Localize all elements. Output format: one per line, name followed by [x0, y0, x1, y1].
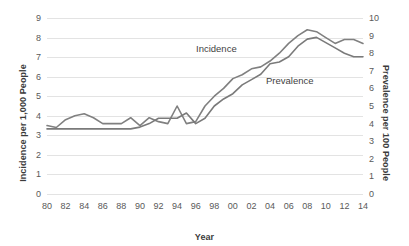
x-axis-tick-label: 06: [279, 201, 299, 211]
y-axis-right-tick-label: 7: [369, 66, 387, 76]
y-axis-left-tick-label: 9: [25, 13, 41, 23]
y-axis-right-tick-label: 4: [369, 119, 387, 129]
x-axis-tick-label: 92: [149, 201, 169, 211]
x-axis-tick-label: 82: [56, 201, 76, 211]
y-axis-left-tick-label: 5: [25, 91, 41, 101]
x-axis-title: Year: [0, 232, 409, 242]
x-axis-tick-label: 10: [316, 201, 336, 211]
series-label-prevalence: Prevalence: [266, 75, 314, 86]
gridline: [47, 194, 363, 195]
x-axis-tick-label: 08: [297, 201, 317, 211]
y-axis-right-tick-label: 0: [369, 189, 387, 199]
y-axis-left-tick-label: 6: [25, 72, 41, 82]
y-axis-left-tick-label: 1: [25, 169, 41, 179]
x-axis-tick-label: 90: [130, 201, 150, 211]
y-axis-right-tick-label: 10: [369, 13, 387, 23]
y-axis-right-tick-label: 1: [369, 171, 387, 181]
x-axis-tick-label: 02: [241, 201, 261, 211]
x-axis-tick-label: 80: [37, 201, 57, 211]
y-axis-left-tick-label: 3: [25, 130, 41, 140]
y-axis-left-tick-label: 7: [25, 52, 41, 62]
x-axis-tick-label: 88: [111, 201, 131, 211]
x-axis-tick-label: 94: [167, 201, 187, 211]
y-axis-left-tick-label: 0: [25, 189, 41, 199]
chart-container: Incidence per 1,000 People Prevalence pe…: [0, 0, 409, 246]
x-axis-tick-label: 12: [334, 201, 354, 211]
y-axis-right-tick-label: 2: [369, 154, 387, 164]
y-axis-right-tick-label: 8: [369, 48, 387, 58]
x-axis-tick-label: 14: [353, 201, 373, 211]
x-axis-tick-label: 00: [223, 201, 243, 211]
y-axis-left-tick-label: 8: [25, 33, 41, 43]
y-axis-right-tick-label: 3: [369, 136, 387, 146]
y-axis-left-tick-label: 4: [25, 111, 41, 121]
y-axis-right-tick-label: 5: [369, 101, 387, 111]
x-axis-tick-label: 98: [204, 201, 224, 211]
y-axis-right-tick-label: 6: [369, 83, 387, 93]
x-axis-tick-label: 86: [93, 201, 113, 211]
series-label-incidence: Incidence: [196, 43, 237, 54]
x-axis-tick-label: 04: [260, 201, 280, 211]
x-axis-tick-label: 84: [74, 201, 94, 211]
y-axis-left-tick-label: 2: [25, 150, 41, 160]
x-axis-tick-label: 96: [186, 201, 206, 211]
y-axis-right-tick-label: 9: [369, 31, 387, 41]
